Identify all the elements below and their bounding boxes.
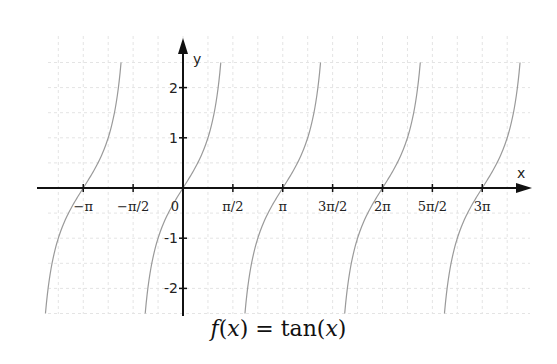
x-tick-label: π [278,199,287,214]
x-tick-label: 5π/2 [418,199,447,214]
caption-paren: ) [240,316,249,341]
grid-lines [48,36,530,314]
x-axis-label: x [517,165,525,181]
caption-paren: ( [219,316,228,341]
caption-variable: x [325,316,337,341]
x-tick-label: π/2 [222,199,243,214]
x-tick-label: 3π/2 [318,199,347,214]
y-tick-label: -2 [164,280,178,296]
x-tick-label: 3π [474,199,491,214]
caption-function-name: f [211,316,219,341]
caption-paren: ) [338,316,347,341]
caption-variable: x [227,316,239,341]
chart-caption: f(x) = tan(x) [0,316,557,341]
y-axis-arrow-icon [178,38,188,54]
x-tick-label: 0 [171,199,179,214]
y-tick-label: 1 [169,130,178,146]
x-tick-label: −π [74,199,94,214]
caption-equals-tan: = tan( [248,316,325,341]
x-tick-label: 2π [374,199,391,214]
y-tick-label: -1 [164,230,178,246]
tan-chart: −π−π/20π/2π3π/22π5π/23π 21-1-2 x y [0,0,557,364]
y-axis-label: y [193,51,201,67]
x-axis-arrow-icon [516,183,532,193]
y-tick-label: 2 [169,80,178,96]
x-tick-label: −π/2 [117,199,149,214]
